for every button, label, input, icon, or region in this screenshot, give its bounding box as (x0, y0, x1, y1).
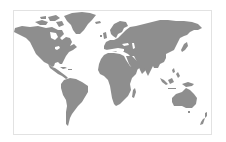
tasmania (188, 111, 190, 113)
south-america (61, 78, 88, 126)
australia (172, 88, 197, 108)
arctic-islands (35, 15, 64, 27)
uk (100, 32, 107, 39)
greenland (64, 12, 96, 34)
world-map (0, 0, 226, 142)
iceland (95, 21, 101, 24)
central-america (48, 64, 68, 79)
se-asia-islands (160, 68, 180, 89)
caribbean (60, 67, 72, 70)
new-zealand (200, 112, 207, 125)
madagascar (132, 88, 136, 98)
new-guinea (182, 82, 194, 87)
japan (181, 42, 188, 52)
north-america (14, 26, 77, 67)
